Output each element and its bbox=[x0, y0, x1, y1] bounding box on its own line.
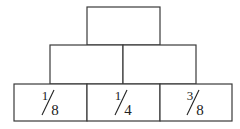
fraction-denominator: 8 bbox=[51, 102, 59, 118]
pyramid-middle-cell-left bbox=[50, 45, 123, 84]
pyramid-top-cell bbox=[87, 7, 160, 45]
fraction-numerator: 1 bbox=[42, 88, 49, 103]
pyramid-middle-cell-right bbox=[123, 45, 196, 84]
pyramid-bottom-cell-1: 1 8 bbox=[14, 84, 87, 121]
fraction-numerator: 3 bbox=[187, 88, 194, 103]
fraction-numerator: 1 bbox=[115, 88, 122, 103]
fraction-denominator: 4 bbox=[124, 102, 132, 118]
pyramid-bottom-cell-2: 1 4 bbox=[87, 84, 160, 121]
fraction-pyramid: 1 8 1 4 3 8 bbox=[0, 0, 240, 129]
pyramid-bottom-cell-3: 3 8 bbox=[160, 84, 232, 121]
fraction-denominator: 8 bbox=[196, 102, 204, 118]
